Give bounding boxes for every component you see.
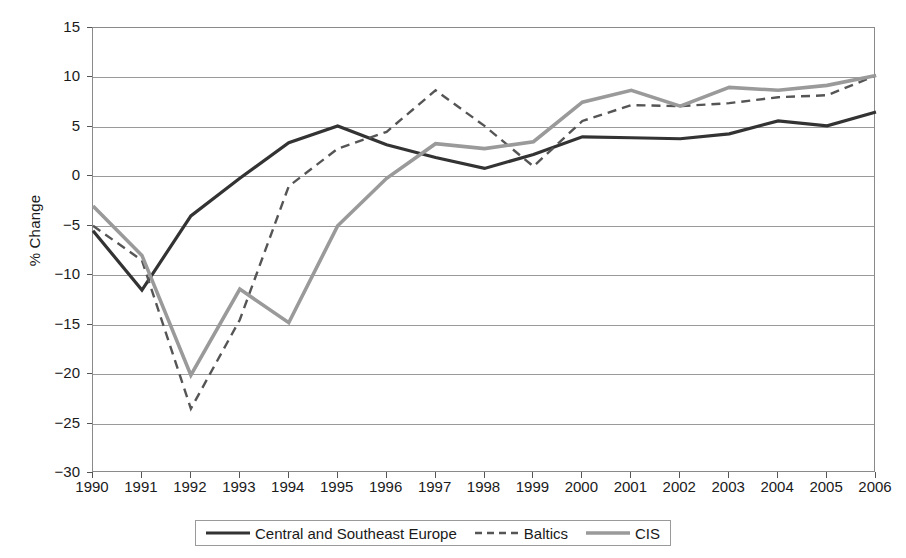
solid-dark-line-icon [206,528,250,538]
legend-label: Central and Southeast Europe [255,525,457,542]
x-tick-label: 1997 [405,478,465,495]
x-tick-label: 2002 [649,478,709,495]
chart-legend: Central and Southeast EuropeBalticsCIS [195,520,671,546]
series-lines [93,28,876,473]
y-tick-label: 15 [22,18,80,35]
x-tick-label: 1996 [356,478,416,495]
x-tick-label: 1995 [307,478,367,495]
y-tick-label: −30 [22,463,80,480]
y-tick-mark [87,472,92,473]
legend-label: CIS [635,525,660,542]
x-tick-label: 1994 [258,478,318,495]
x-tick-label: 2003 [698,478,758,495]
solid-gray-line-icon [586,528,630,538]
x-tick-label: 2005 [796,478,856,495]
line-chart: % Change 151050−5−10−15−20−25−3019901991… [0,0,906,558]
legend-entry[interactable]: CIS [586,525,660,542]
legend-label: Baltics [524,525,568,542]
plot-area [92,27,875,472]
y-tick-label: −20 [22,364,80,381]
dashed-line-icon [475,528,519,538]
legend-entry[interactable]: Central and Southeast Europe [206,525,457,542]
y-tick-label: 10 [22,67,80,84]
x-tick-label: 2001 [600,478,660,495]
y-tick-label: −25 [22,414,80,431]
series-line-cis [93,75,876,375]
series-line-central-and-southeast-europe [93,112,876,290]
x-tick-label: 1998 [454,478,514,495]
x-tick-label: 1999 [502,478,562,495]
legend-entry[interactable]: Baltics [475,525,568,542]
x-tick-label: 1992 [160,478,220,495]
y-axis-title: % Change [26,131,43,331]
x-tick-label: 1991 [111,478,171,495]
x-tick-label: 2006 [845,478,905,495]
x-tick-label: 1990 [62,478,122,495]
x-tick-label: 2004 [747,478,807,495]
x-tick-label: 1993 [209,478,269,495]
x-tick-label: 2000 [551,478,611,495]
